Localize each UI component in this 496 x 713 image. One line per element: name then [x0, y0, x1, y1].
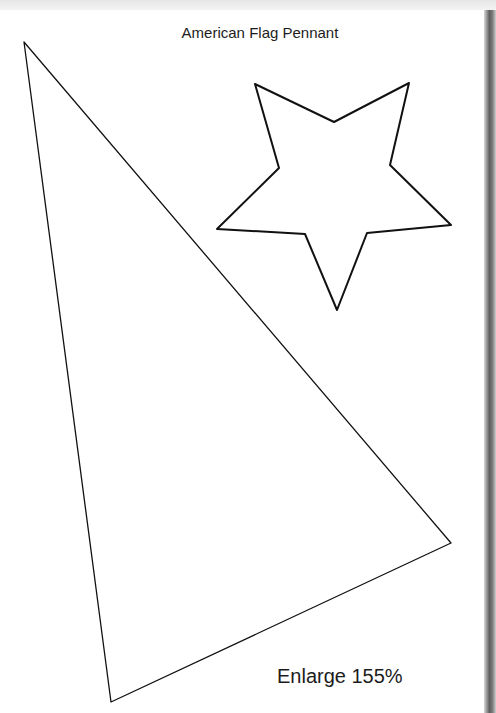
enlarge-instruction: Enlarge 155%	[277, 665, 403, 688]
star-outline	[217, 83, 451, 310]
template-artwork	[0, 0, 496, 713]
page-title: American Flag Pennant	[0, 24, 484, 41]
pennant-triangle-outline	[24, 42, 451, 702]
